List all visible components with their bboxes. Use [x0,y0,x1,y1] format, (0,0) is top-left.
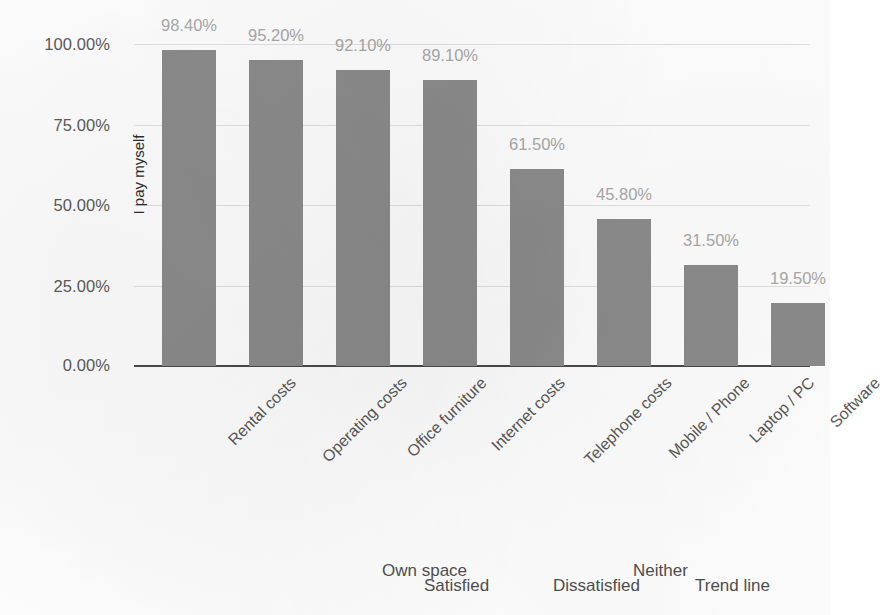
bar-value-label-6: 31.50% [651,231,771,250]
y-tick-label-25: 25.00% [0,276,110,295]
x-axis-label-7: Software [826,374,883,431]
bar-value-label-7: 19.50% [738,269,858,288]
bar-4[interactable] [510,169,564,366]
bar-6[interactable] [684,265,738,366]
x-axis-label-5: Mobile / Phone [665,374,753,462]
y-tick-label-0: 0.00% [0,356,110,375]
bar-3[interactable] [423,80,477,366]
y-axis-title: I pay myself [130,85,147,265]
bar-0[interactable] [162,50,216,366]
y-tick-label-50: 50.00% [0,196,110,215]
bar-value-label-3: 89.10% [390,46,510,65]
y-tick-label-100: 100.00% [0,35,110,54]
bar-value-label-4: 61.50% [477,135,597,154]
bar-2[interactable] [336,70,390,366]
y-tick-label-75: 75.00% [0,115,110,134]
bar-7[interactable] [771,303,825,366]
bar-5[interactable] [597,219,651,366]
x-axis-label-0: Rental costs [225,374,300,449]
x-axis-label-6: Laptop / PC [746,374,818,446]
x-axis-label-4: Telephone costs [581,374,675,468]
x-axis-label-2: Office furniture [404,374,491,461]
plot-area: 100.00% 75.00% 50.00% 25.00% 0.00% I pay… [134,44,810,366]
bar-value-label-5: 45.80% [564,185,684,204]
legend-item-dissatisfied[interactable]: Dissatisfied [553,576,640,596]
legend-item-neither[interactable]: Neither [633,561,688,581]
x-axis-label-3: Internet costs [488,374,569,455]
bar-1[interactable] [249,60,303,366]
legend-item-satisfied[interactable]: Satisfied [424,576,489,596]
x-axis-label-1: Operating costs [319,374,411,466]
legend-item-trend-line[interactable]: Trend line [695,576,770,596]
